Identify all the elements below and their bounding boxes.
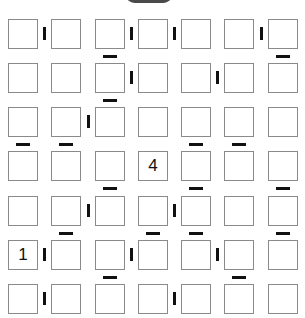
grid-cell[interactable] [138, 107, 168, 137]
grid-cell[interactable] [181, 19, 211, 49]
horizontal-constraint-bar [103, 187, 117, 190]
grid-cell[interactable] [181, 284, 211, 314]
grid-cell[interactable]: 4 [138, 151, 168, 181]
grid-cell[interactable] [95, 107, 125, 137]
grid-cell[interactable] [51, 196, 81, 226]
vertical-constraint-bar [260, 27, 263, 40]
vertical-constraint-bar [43, 27, 46, 40]
grid-cell[interactable] [268, 107, 298, 137]
grid-cell[interactable] [95, 284, 125, 314]
grid-cell[interactable] [138, 240, 168, 270]
horizontal-constraint-bar [232, 276, 246, 279]
vertical-constraint-bar [130, 248, 133, 261]
grid-cell[interactable]: 1 [8, 240, 38, 270]
grid-cell[interactable] [51, 240, 81, 270]
grid-cell[interactable] [224, 196, 254, 226]
grid-cell[interactable] [51, 63, 81, 93]
grid-cell[interactable] [268, 196, 298, 226]
grid-cell[interactable] [224, 107, 254, 137]
grid-cell[interactable] [181, 240, 211, 270]
horizontal-constraint-bar [146, 232, 160, 235]
grid-cell[interactable] [224, 63, 254, 93]
horizontal-constraint-bar [276, 55, 290, 58]
grid-cell[interactable] [138, 284, 168, 314]
grid-cell[interactable] [268, 19, 298, 49]
cell-value: 4 [148, 156, 157, 176]
horizontal-constraint-bar [189, 187, 203, 190]
vertical-constraint-bar [216, 71, 219, 84]
vertical-constraint-bar [87, 115, 90, 128]
grid-cell[interactable] [8, 63, 38, 93]
grid-cell[interactable] [224, 19, 254, 49]
vertical-constraint-bar [216, 248, 219, 261]
grid-cell[interactable] [95, 240, 125, 270]
grid-cell[interactable] [181, 151, 211, 181]
grid-cell[interactable] [51, 151, 81, 181]
cell-value: 1 [18, 245, 27, 265]
grid-cell[interactable] [224, 284, 254, 314]
grid-cell[interactable] [268, 284, 298, 314]
grid-cell[interactable] [138, 196, 168, 226]
grid-cell[interactable] [224, 151, 254, 181]
grid-cell[interactable] [95, 63, 125, 93]
horizontal-constraint-bar [103, 99, 117, 102]
grid-cell[interactable] [138, 63, 168, 93]
grid-cell[interactable] [51, 107, 81, 137]
horizontal-constraint-bar [189, 143, 203, 146]
vertical-constraint-bar [130, 71, 133, 84]
horizontal-constraint-bar [16, 143, 30, 146]
grid-cell[interactable] [95, 151, 125, 181]
vertical-constraint-bar [173, 204, 176, 217]
grid-cell[interactable] [8, 196, 38, 226]
grid-cell[interactable] [8, 107, 38, 137]
vertical-constraint-bar [43, 292, 46, 305]
vertical-constraint-bar [173, 292, 176, 305]
grid-cell[interactable] [181, 63, 211, 93]
grid-cell[interactable] [51, 284, 81, 314]
grid-cell[interactable] [224, 240, 254, 270]
horizontal-constraint-bar [59, 232, 73, 235]
grid-cell[interactable] [268, 63, 298, 93]
vertical-constraint-bar [130, 27, 133, 40]
grid-cell[interactable] [181, 107, 211, 137]
grid-cell[interactable] [95, 19, 125, 49]
vertical-constraint-bar [43, 248, 46, 261]
horizontal-constraint-bar [59, 143, 73, 146]
top-button[interactable] [126, 0, 172, 3]
horizontal-constraint-bar [189, 232, 203, 235]
grid-cell[interactable] [268, 151, 298, 181]
grid-cell[interactable] [51, 19, 81, 49]
horizontal-constraint-bar [232, 143, 246, 146]
grid-cell[interactable] [181, 196, 211, 226]
grid-cell[interactable] [8, 151, 38, 181]
vertical-constraint-bar [87, 204, 90, 217]
horizontal-constraint-bar [103, 276, 117, 279]
grid-cell[interactable] [8, 284, 38, 314]
grid-cell[interactable] [138, 19, 168, 49]
grid-cell[interactable] [95, 196, 125, 226]
horizontal-constraint-bar [103, 55, 117, 58]
horizontal-constraint-bar [276, 232, 290, 235]
vertical-constraint-bar [173, 27, 176, 40]
grid-cell[interactable] [268, 240, 298, 270]
horizontal-constraint-bar [276, 187, 290, 190]
grid-cell[interactable] [8, 19, 38, 49]
